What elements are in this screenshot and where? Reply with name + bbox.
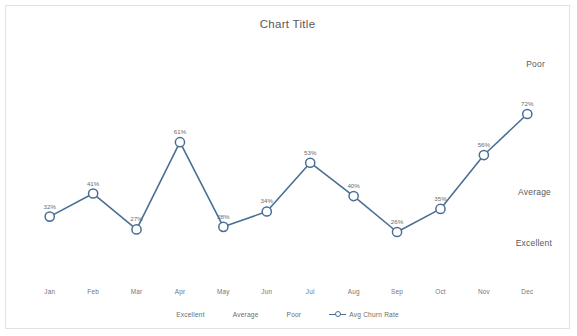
legend-item-poor[interactable]: Poor — [287, 311, 302, 318]
data-point-apr — [175, 138, 184, 147]
x-tick-jul: Jul — [289, 288, 332, 302]
data-point-feb — [89, 189, 98, 198]
data-label-oct: 35% — [434, 195, 447, 202]
x-tick-jan: Jan — [28, 288, 71, 302]
x-tick-dec: Dec — [506, 288, 549, 302]
x-tick-mar: Mar — [115, 288, 158, 302]
chart-card: Chart Title 32%41%27%61%28%34%53%40%26%3… — [5, 5, 570, 329]
series-markers — [45, 109, 532, 236]
data-label-dec: 72% — [521, 100, 534, 107]
x-tick-jun: Jun — [245, 288, 288, 302]
chart-legend: ExcellentAveragePoorAvg Churn Rate — [6, 310, 569, 318]
x-tick-feb: Feb — [71, 288, 114, 302]
data-point-may — [219, 222, 228, 231]
line-chart-svg: 32%41%27%61%28%34%53%40%26%35%56%72% — [6, 6, 570, 329]
data-label-jun: 34% — [261, 197, 274, 204]
data-label-may: 28% — [217, 213, 230, 220]
data-label-feb: 41% — [87, 180, 100, 187]
data-point-jun — [262, 207, 271, 216]
legend-label: Average — [233, 311, 259, 318]
data-label-jul: 53% — [304, 149, 317, 156]
series-line-avg-churn-rate — [50, 114, 528, 232]
legend-label: Poor — [287, 311, 302, 318]
x-tick-may: May — [202, 288, 245, 302]
data-point-dec — [523, 109, 532, 118]
legend-line-marker-icon — [329, 310, 346, 318]
legend-label: Excellent — [176, 311, 205, 318]
data-label-mar: 27% — [130, 215, 143, 222]
data-label-jan: 32% — [44, 203, 57, 210]
series-data-labels: 32%41%27%61%28%34%53%40%26%35%56%72% — [44, 100, 534, 225]
band-label-poor: Poor — [526, 59, 545, 69]
legend-label: Avg Churn Rate — [349, 311, 399, 318]
plot-area: 32%41%27%61%28%34%53%40%26%35%56%72% — [6, 6, 570, 329]
data-label-sep: 26% — [391, 218, 404, 225]
band-label-average: Average — [518, 187, 551, 197]
data-point-jul — [306, 158, 315, 167]
data-point-oct — [436, 204, 445, 213]
x-tick-oct: Oct — [419, 288, 462, 302]
band-label-excellent: Excellent — [516, 238, 552, 248]
data-label-apr: 61% — [174, 128, 187, 135]
data-point-mar — [132, 225, 141, 234]
legend-item-excellent[interactable]: Excellent — [176, 311, 205, 318]
data-label-nov: 56% — [478, 141, 491, 148]
x-tick-nov: Nov — [462, 288, 505, 302]
data-point-aug — [349, 191, 358, 200]
x-tick-sep: Sep — [375, 288, 418, 302]
x-tick-aug: Aug — [332, 288, 375, 302]
x-axis-tick-labels: JanFebMarAprMayJunJulAugSepOctNovDec — [28, 288, 549, 302]
data-point-jan — [45, 212, 54, 221]
x-tick-apr: Apr — [158, 288, 201, 302]
data-point-nov — [479, 150, 488, 159]
data-point-sep — [392, 227, 401, 236]
data-label-aug: 40% — [347, 182, 360, 189]
legend-item-average[interactable]: Average — [233, 311, 259, 318]
legend-item-avg-churn-rate[interactable]: Avg Churn Rate — [329, 310, 399, 318]
